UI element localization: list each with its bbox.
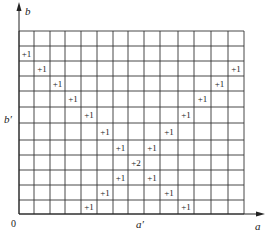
y-axis-label: b: [25, 6, 31, 17]
grid-cell-value: +1: [147, 173, 157, 182]
grid-cell-value: +1: [181, 203, 191, 212]
grid-cell-value: +1: [53, 79, 63, 88]
accumulator-diagram: [0, 0, 272, 235]
grid-cell-value: +1: [84, 203, 94, 212]
grid-cell-value: +1: [164, 127, 174, 136]
grid-cell-value: +1: [68, 95, 78, 104]
y-axis: [17, 2, 22, 214]
x-axis-arrow-icon: [256, 212, 265, 217]
grid-cell-value: +1: [37, 64, 47, 73]
y-mark-label: b′: [4, 114, 12, 125]
grid-cell-value: +1: [22, 49, 32, 58]
grid-cell-value: +1: [100, 127, 110, 136]
grid-cell-value: +1: [181, 111, 191, 120]
grid-cell-value: +1: [84, 111, 94, 120]
origin-label: 0: [11, 219, 16, 229]
grid-cell-value: +1: [215, 79, 225, 88]
grid-cell-value: +1: [198, 95, 208, 104]
grid-cell-value: +1: [147, 143, 157, 152]
grid: [19, 31, 244, 214]
x-mark-label: a′: [136, 219, 144, 230]
x-axis-label: a: [255, 221, 261, 232]
grid-cell-value: +1: [231, 64, 241, 73]
grid-cell-value: +1: [164, 188, 174, 197]
grid-cell-value: +1: [100, 188, 110, 197]
grid-cell-value: +2: [131, 158, 141, 167]
grid-cell-value: +1: [116, 143, 126, 152]
y-axis-arrow-icon: [17, 2, 22, 11]
grid-cell-value: +1: [116, 173, 126, 182]
